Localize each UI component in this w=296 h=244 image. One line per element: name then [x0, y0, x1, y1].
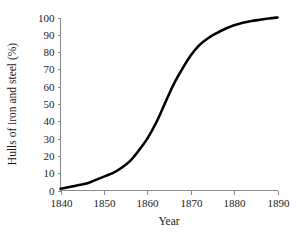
x-tick-label: 1890 — [268, 197, 291, 209]
x-tick-label: 1870 — [181, 197, 204, 209]
data-curve-hulls-of-iron-and-steel — [61, 18, 278, 189]
y-tick-label: 60 — [44, 81, 56, 93]
x-tick-label: 1860 — [137, 197, 160, 209]
y-tick-label: 10 — [44, 167, 56, 179]
x-axis: 184018501860187018801890 — [51, 191, 291, 209]
x-tick-label: 1850 — [94, 197, 117, 209]
y-tick-label: 30 — [44, 133, 56, 145]
y-tick-label: 20 — [44, 150, 56, 162]
y-tick-label: 80 — [44, 46, 56, 58]
x-tick-marks — [62, 191, 279, 195]
y-tick-labels: 0102030405060708090100 — [38, 12, 55, 197]
y-tick-label: 50 — [44, 98, 56, 110]
y-axis: 0102030405060708090100 — [38, 12, 61, 197]
y-tick-label: 40 — [44, 115, 56, 127]
x-tick-label: 1880 — [224, 197, 247, 209]
x-axis-title: Year — [158, 215, 179, 227]
line-chart-plot: 0102030405060708090100 18401850186018701… — [0, 0, 296, 244]
x-tick-labels: 184018501860187018801890 — [51, 197, 291, 209]
y-tick-label: 100 — [38, 12, 55, 24]
y-tick-label: 90 — [44, 29, 56, 41]
chart-figure: 0102030405060708090100 18401850186018701… — [0, 0, 296, 244]
y-tick-label: 70 — [44, 63, 56, 75]
y-axis-title: Hulls of iron and steel (%) — [6, 43, 19, 165]
y-tick-label: 0 — [49, 185, 55, 197]
x-tick-label: 1840 — [51, 197, 74, 209]
